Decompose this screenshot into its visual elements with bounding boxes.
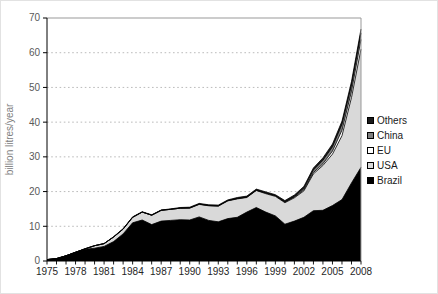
x-axis-tick-label: 1975 xyxy=(36,266,59,277)
x-axis: 1975197819811984198719901993199619992002… xyxy=(36,261,373,277)
legend-label-brazil: Brazil xyxy=(377,175,402,186)
brazil-swatch-icon xyxy=(367,177,374,184)
x-axis-tick-label: 1990 xyxy=(179,266,202,277)
y-axis-tick-label: 20 xyxy=(29,186,41,197)
y-axis: 010203040506070 xyxy=(29,12,47,266)
y-axis-title: billion litres/year xyxy=(4,103,15,175)
ethanol-production-stacked-area-chart: 0102030405060701975197819811984198719901… xyxy=(0,0,438,294)
others-swatch-icon xyxy=(367,117,374,124)
eu-swatch-icon xyxy=(367,147,374,154)
legend-item-china: China xyxy=(367,130,407,141)
x-axis-tick-label: 2008 xyxy=(350,266,373,277)
china-swatch-icon xyxy=(367,132,374,139)
x-axis-tick-label: 1996 xyxy=(236,266,259,277)
x-axis-tick-label: 1993 xyxy=(207,266,230,277)
legend-label-china: China xyxy=(377,130,403,141)
x-axis-tick-label: 2005 xyxy=(321,266,344,277)
legend-item-brazil: Brazil xyxy=(367,175,407,186)
y-axis-tick-label: 40 xyxy=(29,117,41,128)
x-axis-tick-label: 1984 xyxy=(122,266,145,277)
legend: Others China EU USA Brazil xyxy=(367,115,407,186)
legend-label-eu: EU xyxy=(377,145,391,156)
y-axis-tick-label: 50 xyxy=(29,82,41,93)
usa-swatch-icon xyxy=(367,162,374,169)
x-axis-tick-label: 2002 xyxy=(293,266,316,277)
x-axis-tick-label: 1981 xyxy=(93,266,116,277)
legend-item-others: Others xyxy=(367,115,407,126)
legend-label-others: Others xyxy=(377,115,407,126)
y-axis-tick-label: 60 xyxy=(29,47,41,58)
legend-item-eu: EU xyxy=(367,145,407,156)
x-axis-tick-label: 1987 xyxy=(150,266,173,277)
y-axis-tick-label: 30 xyxy=(29,151,41,162)
legend-label-usa: USA xyxy=(377,160,398,171)
x-axis-tick-label: 1999 xyxy=(264,266,287,277)
legend-item-usa: USA xyxy=(367,160,407,171)
x-axis-tick-label: 1978 xyxy=(64,266,87,277)
y-axis-tick-label: 0 xyxy=(34,255,40,266)
y-axis-tick-label: 10 xyxy=(29,221,41,232)
y-axis-tick-label: 70 xyxy=(29,12,41,23)
